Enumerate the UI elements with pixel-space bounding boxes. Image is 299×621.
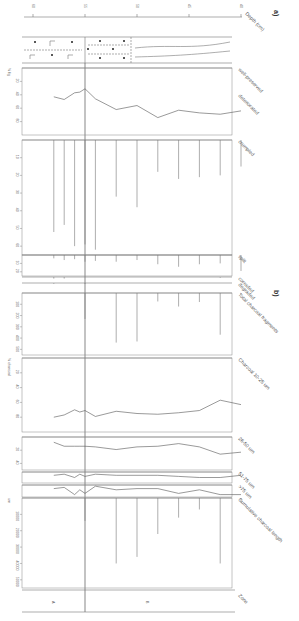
- y-tick-label: 40: [15, 208, 19, 212]
- panel-51-75-um: 51-75 um: [22, 470, 256, 489]
- y-tick-label: 20000: [15, 528, 19, 538]
- y-tick-label: 40: [15, 385, 19, 389]
- depth-axis-label: Depth (cm): [244, 10, 266, 32]
- panel--75-um: >75 um: [22, 483, 253, 499]
- series-label: Charcoal 10-25 um: [237, 356, 271, 390]
- y-tick-label: 20: [15, 447, 19, 451]
- y-tick-label: 400: [15, 335, 19, 341]
- panel-crumpled: 102030405060crumpled: [15, 138, 256, 255]
- y-tick-label: 40: [15, 460, 19, 464]
- series-label: 26-50 um: [237, 435, 256, 454]
- y-tick-label: 20: [15, 370, 19, 374]
- depth-tick-label: 55: [83, 4, 87, 8]
- panel-well-preserved-deteriorated: 20406080% figwell-preserveddeteriorated: [7, 66, 265, 135]
- y-axis-label: % fig: [7, 68, 11, 76]
- panel-b-label: b): [272, 290, 280, 297]
- y-tick-label: 300: [15, 324, 19, 330]
- series-label: Cumulative charcoal length: [237, 496, 284, 543]
- zone-a: A: [51, 601, 55, 604]
- y-tick-label: 200: [15, 313, 19, 319]
- y-tick-label: 100: [15, 301, 19, 307]
- y-tick-label: 60: [15, 105, 19, 109]
- y-tick-label: 10: [15, 155, 19, 159]
- y-axis-label: um: [7, 498, 11, 503]
- panel-split: 1020split: [15, 253, 248, 276]
- y-tick-label: 80: [15, 414, 19, 418]
- zone-b: B: [145, 601, 149, 604]
- y-axis-label: % charcoal: [7, 358, 11, 376]
- y-tick-label: 50: [15, 225, 19, 229]
- y-tick-label: 20: [15, 269, 19, 273]
- panel-corroded: corroded: [22, 275, 256, 293]
- y-tick-label: 30: [15, 190, 19, 194]
- y-tick-label: 40000: [15, 560, 19, 570]
- y-tick-label: 20: [15, 78, 19, 82]
- y-tick-label: 500: [15, 346, 19, 352]
- series-label: well-preserved: [237, 66, 264, 93]
- series-label: crumpled: [237, 138, 256, 157]
- depth-tick-label: 40: [239, 4, 243, 8]
- y-tick-label: 40: [15, 92, 19, 96]
- y-tick-label: 30000: [15, 544, 19, 554]
- zone-label: Zone: [237, 592, 249, 604]
- lithology-column: [22, 37, 232, 63]
- y-tick-label: 60: [15, 399, 19, 403]
- figure: 6055504540 Depth (cm) a) b) 20406080% fi…: [0, 0, 299, 621]
- y-tick-label: 80: [15, 119, 19, 123]
- series-label: deteriorated: [237, 92, 260, 115]
- panel-degraded: degraded: [22, 281, 257, 300]
- panel-26-50-um: 204026-50 um: [15, 435, 256, 470]
- y-tick-label: 20: [15, 172, 19, 176]
- depth-axis: [24, 14, 242, 17]
- series-label: split: [237, 253, 248, 264]
- y-tick-label: 60: [15, 243, 19, 247]
- depth-tick-label: 45: [187, 4, 191, 8]
- y-tick-label: 50000: [15, 577, 19, 587]
- y-tick-label: 10: [15, 260, 19, 264]
- y-tick-label: 10000: [15, 511, 19, 521]
- panel-cumulative-charcoal-length: 1000020000300004000050000umCumulative ch…: [7, 496, 284, 588]
- panel-a-label: a): [272, 10, 280, 16]
- panel-total-charcoal-fragments: 100200300400500Total charcoal fragments: [15, 291, 280, 355]
- series-label: Total charcoal fragments: [237, 291, 280, 334]
- depth-tick-label: 50: [135, 4, 139, 8]
- depth-tick-label: 60: [31, 4, 35, 8]
- panel-charcoal-10-25-um: 20406080% charcoalCharcoal 10-25 um: [7, 356, 272, 432]
